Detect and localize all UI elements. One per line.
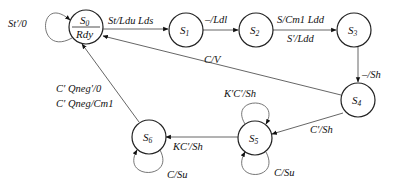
label-s5-self-bottom: C/Su (274, 167, 294, 178)
label-s5-s6: KC′/Sh (172, 141, 203, 152)
label-s4-s0: C/V (204, 54, 222, 65)
label-s0-s1: St/Ldu Lds (108, 15, 153, 26)
label-s0-self: St′/0 (8, 18, 27, 29)
state-s2: S2 (239, 13, 273, 47)
label-s2-s3-b: S′/Ldd (287, 33, 315, 44)
label-s5-self-top: K′C′/Sh (223, 88, 256, 99)
state-s3: S3 (337, 13, 371, 47)
label-s6-self: C/Su (167, 169, 187, 180)
state-diagram: S0 Rdy S1 S2 S3 S4 S5 S6 St′/0 St/Ldu Ld… (0, 0, 398, 189)
state-output: Rdy (75, 28, 93, 40)
state-s4: S4 (341, 83, 375, 117)
label-s6-s0-b: C′ Qneg/Cm1 (56, 98, 113, 109)
edge-s4-s0 (103, 36, 341, 95)
label-s3-s4: –/Sh (361, 69, 381, 80)
loop-s0 (46, 13, 73, 42)
label-s2-s3-a: S/Cm1 Ldd (277, 14, 325, 25)
label-s4-s5: C′/Sh (310, 124, 333, 135)
label-s6-s0-a: C′ Qneg′/0 (56, 83, 102, 94)
state-s5: S5 (238, 121, 272, 155)
state-s0: S0 Rdy (69, 10, 103, 44)
state-s6: S6 (132, 120, 166, 154)
label-s1-s2: –/Ldl (204, 14, 227, 25)
state-s1: S1 (169, 13, 203, 47)
